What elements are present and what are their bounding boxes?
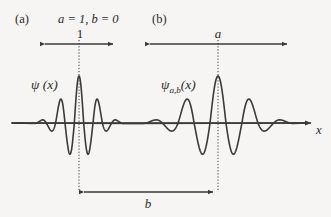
function-label-a: ψ (x) xyxy=(31,78,58,92)
scale-bar-b-label: a xyxy=(215,27,222,40)
annotation-bars-group xyxy=(45,44,287,192)
panel-label-b: (b) xyxy=(152,13,167,26)
wavelet-figure: (a) a = 1, b = 0 (b) 1 a b ψ (x) ψa,b(x)… xyxy=(0,0,331,217)
parameters-label: a = 1, b = 0 xyxy=(58,13,119,26)
function-label-b-tail: (x) xyxy=(181,77,196,92)
guide-lines-group xyxy=(79,40,218,192)
function-label-b: ψa,b(x) xyxy=(161,78,196,95)
scale-bar-a-label: 1 xyxy=(77,27,84,40)
wavelet-plot xyxy=(0,0,331,217)
x-axis-label: x xyxy=(316,124,322,137)
panel-label-a: (a) xyxy=(15,13,29,26)
shift-bar-label: b xyxy=(145,197,152,210)
function-label-b-subscript: a,b xyxy=(169,85,180,95)
